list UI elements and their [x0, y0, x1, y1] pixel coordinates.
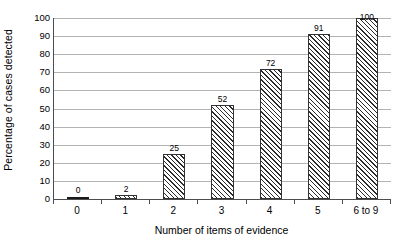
x-tick-mark: [246, 200, 247, 204]
y-tick-label: 30: [18, 140, 50, 150]
y-tick-label: 20: [18, 158, 50, 168]
bar-category-0[interactable]: 0: [67, 197, 89, 199]
bar-category-2[interactable]: 25: [163, 154, 185, 199]
x-tick-mark: [53, 200, 54, 204]
y-tick-label: 60: [18, 86, 50, 96]
x-tick-label: 2: [149, 205, 197, 219]
bars-layer: 0 2 25 52 72: [54, 18, 391, 199]
x-tick-mark: [294, 200, 295, 204]
bar-category-3[interactable]: 52: [211, 105, 233, 199]
y-tick-label: 80: [18, 49, 50, 59]
bar-slot-5: 91: [295, 18, 343, 199]
bar-slot-2: 25: [150, 18, 198, 199]
y-tick-label: 0: [18, 194, 50, 204]
bar-slot-3: 52: [198, 18, 246, 199]
bar-value-label: 25: [170, 144, 179, 153]
bar-category-1[interactable]: 2: [115, 195, 137, 199]
y-tick-label: 10: [18, 176, 50, 186]
bar-slot-1: 2: [102, 18, 150, 199]
x-axis-tick-labels: 0 1 2 3 4 5 6 to 9: [53, 205, 390, 219]
y-tick-label: 40: [18, 122, 50, 132]
bar-value-label: 100: [360, 13, 374, 22]
x-tick-mark: [149, 200, 150, 204]
y-tick-label: 50: [18, 104, 50, 114]
bar-value-label: 0: [76, 186, 81, 195]
x-axis-title: Number of items of evidence: [53, 224, 390, 236]
bar-slot-4: 72: [247, 18, 295, 199]
y-tick-label: 70: [18, 68, 50, 78]
bar-slot-0: 0: [54, 18, 102, 199]
bar-value-label: 72: [266, 59, 275, 68]
bar-slot-6: 100: [343, 18, 391, 199]
bar-category-4[interactable]: 72: [260, 69, 282, 199]
y-axis-tick-labels: 0 10 20 30 40 50 60 70 80 90 100: [18, 18, 50, 199]
bar-chart-figure: Percentage of cases detected 0 10 20 30 …: [0, 0, 401, 247]
bar-category-6-to-9[interactable]: 100: [356, 18, 378, 199]
x-tick-label: 4: [246, 205, 294, 219]
bar-value-label: 91: [314, 24, 323, 33]
x-axis-tick-marks: [53, 200, 391, 204]
bar-category-5[interactable]: 91: [308, 34, 330, 199]
x-tick-label: 6 to 9: [342, 205, 390, 219]
x-tick-mark: [197, 200, 198, 204]
y-axis-title-text: Percentage of cases detected: [2, 29, 14, 171]
y-tick-label: 100: [18, 13, 50, 23]
y-tick-label: 90: [18, 31, 50, 41]
x-tick-label: 0: [53, 205, 101, 219]
bar-value-label: 52: [218, 95, 227, 104]
bar-value-label: 2: [124, 185, 129, 194]
x-tick-label: 3: [197, 205, 245, 219]
x-tick-label: 5: [294, 205, 342, 219]
plot-area: 0 2 25 52 72: [53, 18, 391, 200]
x-tick-mark: [390, 200, 391, 204]
y-axis-title: Percentage of cases detected: [0, 0, 16, 200]
x-tick-mark: [101, 200, 102, 204]
x-tick-label: 1: [101, 205, 149, 219]
x-tick-mark: [342, 200, 343, 204]
